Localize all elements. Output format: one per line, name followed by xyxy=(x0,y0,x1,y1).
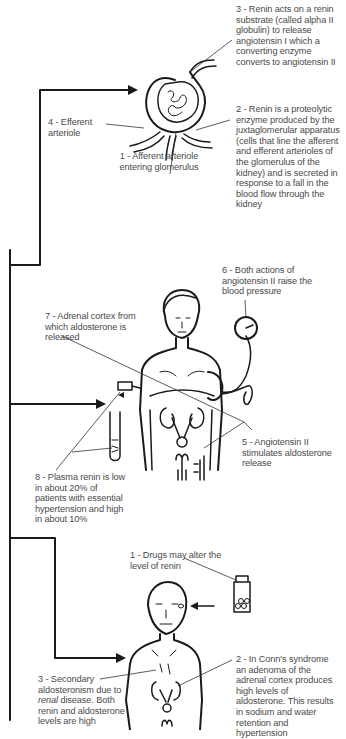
arrow-head-patient xyxy=(116,653,126,663)
label-angiotensin-aldosterone: 5 - Angiotensin II stimulates aldosteron… xyxy=(242,437,332,469)
label-efferent-arteriole: 4 - Efferent arteriole xyxy=(48,117,118,138)
label-plasma-renin: 8 - Plasma renin is low in about 20% of … xyxy=(35,472,131,525)
label-drugs-renin: 1 - Drugs may alter the level of renin xyxy=(130,550,230,571)
label-renin-substrate: 3 - Renin acts on a renin substrate (cal… xyxy=(236,4,344,68)
flow-connectors xyxy=(10,85,138,720)
label-adrenal-cortex: 7 - Adrenal cortex from which aldosteron… xyxy=(45,311,141,343)
glomerulus-illustration xyxy=(130,60,216,160)
label-afferent-arteriole: 1 - Afferent arteriole entering glomerul… xyxy=(114,151,204,172)
label-renin-proteolytic: 2 - Renin is a proteolytic enzyme produc… xyxy=(236,104,344,210)
patient-leader-lines xyxy=(100,558,236,686)
label-angiotensin-raise-bp: 6 - Both actions of angiotensin II raise… xyxy=(222,265,318,297)
arrow-head-body xyxy=(96,399,106,409)
label-conns-syndrome: 2 - In Conn's syndrome an adenoma of the… xyxy=(236,654,336,739)
label-secondary-aldosteronism-pre: 3 - Secondary aldosteronism due to xyxy=(38,674,121,695)
label-secondary-aldosteronism-renal: renal xyxy=(38,695,58,705)
label-secondary-aldosteronism: 3 - Secondary aldosteronism due to renal… xyxy=(38,674,132,727)
arrow-head-kidney xyxy=(128,85,138,95)
connector-to-patient xyxy=(10,538,118,658)
patient-figure xyxy=(126,576,250,730)
